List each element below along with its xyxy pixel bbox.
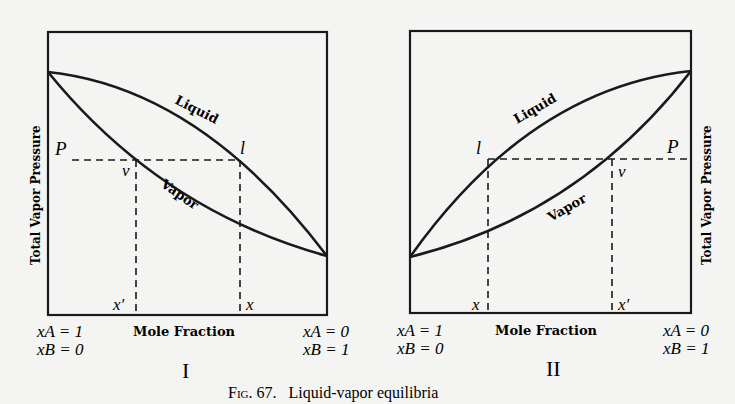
panel-2-roman-numeral: II [546,356,561,381]
panel-1-x-label: x [245,295,254,314]
panel-1-v-label: v [122,161,130,180]
panel-1-l-label: l [240,138,245,158]
panel-2-xprime-label: x′ [617,295,630,314]
panel-2-y-axis-label: Total Vapor Pressure [700,125,714,265]
panel-2-left-label-line2: xB = 0 [396,339,444,358]
figure-caption-label: Fig. 67. [228,384,277,401]
panel-2-v-label: v [618,162,626,181]
panel-1-frame [48,32,327,315]
panel-1-P-label: P [54,138,67,159]
panel-2-x-label: x [471,295,480,314]
figure-caption: Fig. 67. Liquid-vapor equilibria [228,384,438,402]
panel-1-right-label-line2: xB = 1 [302,340,349,359]
panel-1-vapor-label: Vapor [157,176,201,213]
panel-2-x-axis-label: Mole Fraction [495,323,598,338]
panel-1-right-label-line1: xA = 0 [302,322,350,341]
panel-2-P-label: P [666,136,679,157]
figure-caption-text: Liquid-vapor equilibria [289,384,439,402]
panel-1-left-label-line1: xA = 1 [36,322,83,341]
panel-2-liquid-label: Liquid [511,90,559,126]
panel-2-right-label-line1: xA = 0 [662,321,710,340]
panel-2-frame [410,31,691,313]
panel-1-x-axis-label: Mole Fraction [133,324,236,339]
panel-2-left-label-line1: xA = 1 [396,321,443,340]
panel-2-right-label-line2: xB = 1 [662,339,709,358]
panel-1-y-axis-label: Total Vapor Pressure [29,125,43,265]
panel-2-l-label: l [476,138,481,158]
panel-1-roman-numeral: I [182,358,189,383]
panel-1-xprime-label: x′ [112,295,125,314]
figure-canvas: Liquid Vapor P l v x′ x Total Vapor Pres… [0,0,735,404]
panel-1-left-label-line2: xB = 0 [36,340,84,359]
panel-1-liquid-label: Liquid [173,92,221,127]
panel-2: Liquid Vapor P l v x x′ Total Vapor Pres… [396,31,714,381]
panel-1: Liquid Vapor P l v x′ x Total Vapor Pres… [29,32,350,383]
panel-2-vapor-label: Vapor [544,191,589,226]
